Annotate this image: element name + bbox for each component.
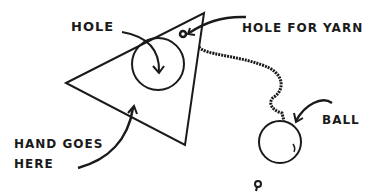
- diagram-canvas: HOLE HOLE FOR YARN HAND GOES HERE BALL: [0, 0, 379, 192]
- label-hole-for-yarn: HOLE FOR YARN: [242, 21, 363, 35]
- yarn-hole-mark: [180, 31, 186, 37]
- yarn-hole-arrow: [189, 17, 246, 33]
- label-hand-goes-here-line1: HAND GOES: [14, 137, 103, 151]
- ball-circle: [259, 121, 301, 163]
- yarn-string: [199, 47, 284, 121]
- small-ring-tail: [256, 187, 257, 191]
- label-hole: HOLE: [71, 20, 114, 34]
- ball-highlight: [293, 144, 295, 152]
- small-ring-mark: [255, 181, 261, 187]
- label-ball: BALL: [322, 113, 360, 127]
- label-hand-goes-here-line2: HERE: [14, 157, 54, 171]
